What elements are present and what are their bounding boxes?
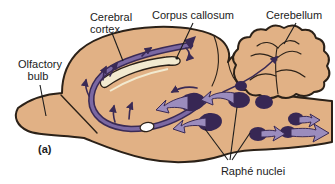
cerebellum-shape <box>233 25 329 98</box>
label-corpus-callosum: Corpus callosum <box>152 9 234 21</box>
panel-label: (a) <box>38 143 52 155</box>
label-olfactory-bulb-line1: Olfactory <box>18 58 63 70</box>
label-cerebral-cortex-line1: Cerebral <box>90 11 132 23</box>
brain-sagittal-diagram: Cerebral cortex Corpus callosum Cerebell… <box>0 0 335 184</box>
label-olfactory-bulb-line2: bulb <box>28 70 49 82</box>
brain-diagram-canvas: Cerebral cortex Corpus callosum Cerebell… <box>0 0 335 184</box>
label-cerebral-cortex-line2: cortex <box>90 23 120 35</box>
label-cerebellum: Cerebellum <box>266 9 322 21</box>
label-raphe-nuclei: Raphé nuclei <box>221 165 285 177</box>
